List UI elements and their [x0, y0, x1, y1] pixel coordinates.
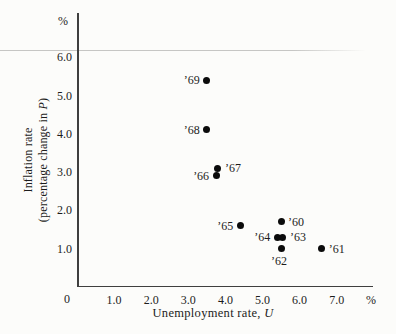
y-axis-title-line1: Inflation rate — [21, 80, 36, 240]
x-axis-line — [77, 286, 373, 288]
data-point-dot — [278, 218, 285, 225]
data-point-label: ’62 — [264, 254, 294, 268]
data-point-dot — [274, 234, 281, 241]
data-point-dot — [214, 165, 221, 172]
y-tick-label: 1.0 — [40, 242, 72, 256]
data-point-dot — [237, 222, 244, 229]
y-tick-label: 5.0 — [40, 89, 72, 103]
data-point-label: ’63 — [290, 230, 332, 244]
y-tick-label: 3.0 — [40, 165, 72, 179]
y-tick-label: 2.0 — [40, 203, 72, 217]
data-point-label: ’61 — [329, 242, 371, 256]
phillips-curve-scatter-chart: % % 0 Inflation rate (percentage change … — [0, 0, 396, 334]
x-tick-label: 4.0 — [210, 293, 240, 307]
data-point-dot — [318, 245, 325, 252]
x-axis-unit-label: % — [366, 293, 376, 307]
x-tick-label: 3.0 — [173, 293, 203, 307]
y-axis-variable: P — [36, 102, 50, 110]
data-point-label: ’67 — [225, 161, 267, 175]
x-tick-label: 1.0 — [99, 293, 129, 307]
data-point-dot — [278, 245, 285, 252]
x-axis-variable: U — [264, 306, 273, 320]
x-axis-title: Unemployment rate, U — [153, 306, 274, 321]
data-point-label: ’60 — [288, 215, 330, 229]
origin-label: 0 — [64, 292, 70, 306]
y-tick-label: 6.0 — [40, 50, 72, 64]
x-tick-label: 5.0 — [248, 293, 278, 307]
x-tick-label: 2.0 — [136, 293, 166, 307]
y-tick-label: 4.0 — [40, 127, 72, 141]
data-point-dot — [203, 126, 210, 133]
y-axis-line — [77, 13, 79, 287]
data-point-label: ’69 — [158, 73, 200, 87]
data-point-label: ’65 — [191, 219, 233, 233]
data-point-label: ’64 — [228, 230, 270, 244]
data-point-label: ’66 — [167, 169, 209, 183]
y-axis-unit-label: % — [58, 14, 68, 28]
x-tick-label: 7.0 — [322, 293, 352, 307]
data-point-dot — [213, 172, 220, 179]
data-point-label: ’68 — [158, 123, 200, 137]
data-point-dot — [203, 77, 210, 84]
x-axis-title-prefix: Unemployment rate, — [153, 306, 265, 320]
x-tick-label: 6.0 — [285, 293, 315, 307]
